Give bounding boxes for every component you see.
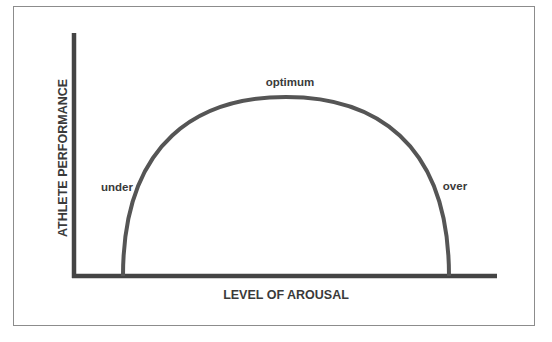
optimum-label: optimum <box>266 76 315 88</box>
under-label: under <box>101 181 133 193</box>
y-axis-label: ATHLETE PERFORMANCE <box>56 79 70 237</box>
performance-curve <box>123 97 449 276</box>
over-label: over <box>443 180 468 192</box>
inverted-u-diagram: optimum under over LEVEL OF AROUSAL ATHL… <box>0 0 552 342</box>
x-axis-label: LEVEL OF AROUSAL <box>223 288 349 302</box>
